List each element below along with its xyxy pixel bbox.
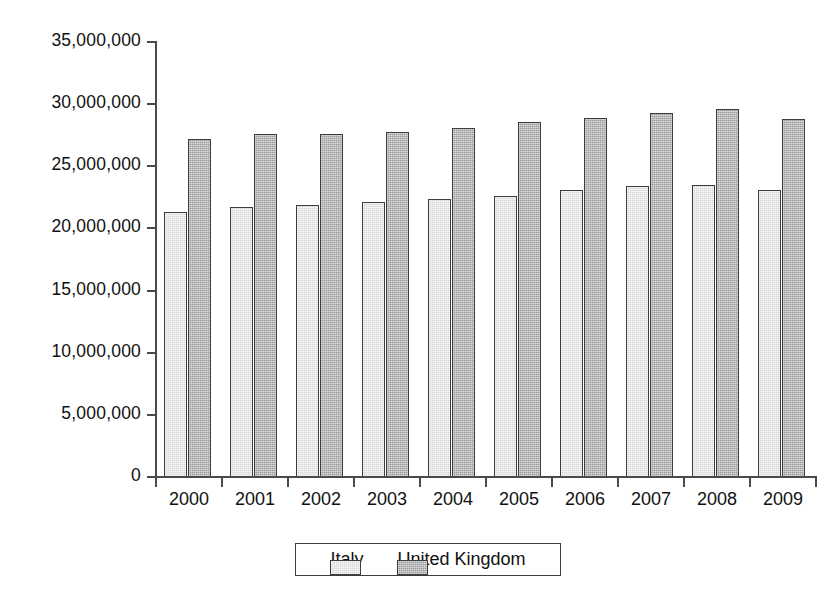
bar-united-kingdom-2008 [716, 109, 739, 477]
x-axis-tick-label: 2001 [222, 489, 288, 510]
y-axis-tick [147, 41, 156, 43]
bar-italy-2005 [494, 196, 517, 477]
x-axis-tick [353, 478, 355, 487]
bar-italy-2009 [758, 190, 781, 477]
y-axis-tick-label: 10,000,000 [8, 341, 141, 362]
x-axis-tick [617, 478, 619, 487]
bar-united-kingdom-2005 [518, 122, 541, 477]
x-axis-tick [419, 478, 421, 487]
x-axis-tick-label: 2009 [750, 489, 816, 510]
bar-chart: 05,000,00010,000,00015,000,00020,000,000… [0, 0, 837, 611]
x-axis-tick [221, 478, 223, 487]
x-axis-tick [551, 478, 553, 487]
y-axis-tick [147, 290, 156, 292]
bar-united-kingdom-2004 [452, 128, 475, 477]
bar-italy-2006 [560, 190, 583, 477]
bar-united-kingdom-2002 [320, 134, 343, 477]
bar-united-kingdom-2003 [386, 132, 409, 478]
bar-united-kingdom-2006 [584, 118, 607, 477]
y-axis-tick-label: 15,000,000 [8, 279, 141, 300]
x-axis-tick [485, 478, 487, 487]
y-axis-tick [147, 227, 156, 229]
bar-italy-2008 [692, 185, 715, 477]
y-axis-tick-label: 25,000,000 [8, 154, 141, 175]
x-axis-tick [749, 478, 751, 487]
x-axis-tick [155, 478, 157, 487]
x-axis-tick-label: 2002 [288, 489, 354, 510]
bar-italy-2000 [164, 212, 187, 477]
plot-area [156, 42, 816, 477]
x-axis-tick-label: 2008 [684, 489, 750, 510]
y-axis-tick [147, 165, 156, 167]
x-axis-tick [683, 478, 685, 487]
x-axis-tick-label: 2005 [486, 489, 552, 510]
legend-swatch-italy [330, 560, 361, 575]
y-axis-tick-label: 35,000,000 [8, 30, 141, 51]
y-axis-line [155, 41, 157, 478]
bar-italy-2002 [296, 205, 319, 477]
bar-italy-2007 [626, 186, 649, 477]
bar-italy-2003 [362, 202, 385, 477]
bar-italy-2001 [230, 207, 253, 477]
legend-entry-united-kingdom: United Kingdom [397, 549, 525, 570]
x-axis-tick-label: 2004 [420, 489, 486, 510]
x-axis-tick-label: 2007 [618, 489, 684, 510]
bar-united-kingdom-2000 [188, 139, 211, 477]
bar-united-kingdom-2001 [254, 134, 277, 477]
x-axis-tick-label: 2003 [354, 489, 420, 510]
y-axis-tick-label: 30,000,000 [8, 92, 141, 113]
legend-swatch-united-kingdom [397, 560, 428, 575]
legend-entry-italy: Italy [330, 549, 363, 570]
y-axis-tick-label: 5,000,000 [8, 403, 141, 424]
y-axis-tick [147, 103, 156, 105]
bar-united-kingdom-2009 [782, 119, 805, 477]
y-axis-tick [147, 414, 156, 416]
x-axis-tick [815, 478, 817, 487]
y-axis-tick-label: 20,000,000 [8, 216, 141, 237]
bar-united-kingdom-2007 [650, 113, 673, 477]
legend: Italy United Kingdom [295, 543, 561, 576]
x-axis-tick-label: 2000 [156, 489, 222, 510]
bar-italy-2004 [428, 199, 451, 477]
y-axis-tick-label: 0 [8, 465, 141, 486]
x-axis-tick-label: 2006 [552, 489, 618, 510]
y-axis-tick [147, 352, 156, 354]
x-axis-tick [287, 478, 289, 487]
